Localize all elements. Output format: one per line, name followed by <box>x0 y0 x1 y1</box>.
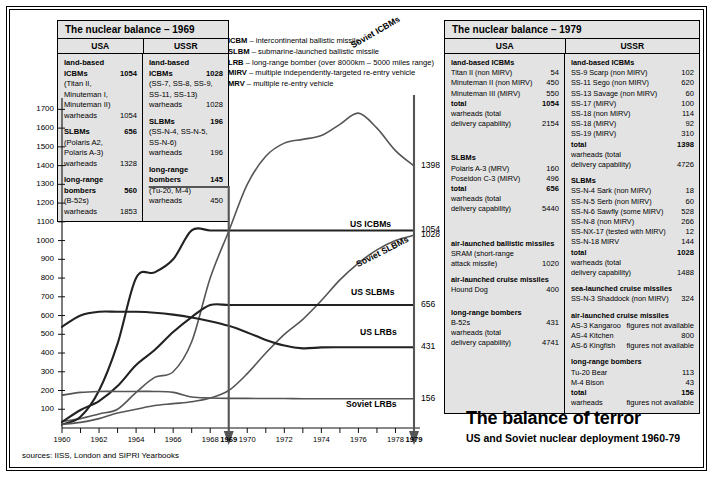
y-tick-label: 800 <box>22 273 54 282</box>
row-value: 324 <box>681 294 694 304</box>
table-row: SLBMs <box>571 176 694 186</box>
table-1979-col-usa-header: USA <box>445 39 566 53</box>
row-label: SRAM (short-range <box>451 249 518 259</box>
series-label: Soviet LRBs <box>346 399 397 409</box>
row-label: SLBMs <box>571 176 600 186</box>
row-value: 656 <box>546 184 559 194</box>
page-subtitle: US and Soviet nuclear deployment 1960-79 <box>466 432 680 444</box>
x-tick-label: 1979 <box>397 435 431 444</box>
row-label: SS-N-18 MIRV <box>571 237 623 247</box>
y-tick-label: 1300 <box>22 179 54 188</box>
row-label: warheads (total <box>451 328 505 338</box>
table-row: land-based ICBMs <box>571 58 694 68</box>
row-label: warheads (total <box>571 150 625 160</box>
legend-desc: – long-range bomber (over 8000km – 5000 … <box>244 58 434 67</box>
table-row: warheads (total <box>451 328 559 338</box>
row-label: Tu-20 Bear <box>571 368 611 378</box>
abbreviation-legend: ICBM – intercontinental ballistic missil… <box>228 36 434 90</box>
legend-entry: SLBM – submarine-launched ballistic miss… <box>228 47 434 58</box>
row-label: delivery capability) <box>451 204 515 214</box>
table-row: Poseidon C-3 (MIRV)496 <box>451 174 559 184</box>
row-value: 92 <box>686 119 694 129</box>
line-chart: 1002003004005006007008009001000110012001… <box>14 95 454 455</box>
row-value: figures not available <box>626 341 694 351</box>
table-1979-header: USA USSR <box>445 39 699 54</box>
row-label: total <box>571 388 590 398</box>
row-label: AS-6 Kingfish <box>571 341 619 351</box>
page-title: The balance of terror <box>466 408 641 429</box>
table-row: SS-19 (MIRV)310 <box>571 129 694 139</box>
row-label: ICBMs <box>64 69 92 80</box>
y-tick-label: 1200 <box>22 198 54 207</box>
table-row: SS-NX-17 (tested with MIRV)12 <box>571 227 694 237</box>
y-tick-label: 500 <box>22 329 54 338</box>
row-value: 114 <box>682 109 694 119</box>
series-end-value: 1028 <box>421 229 440 239</box>
row-value: 1054 <box>120 69 137 80</box>
nuclear-balance-1979-table: The nuclear balance – 1979 USA USSR land… <box>444 20 700 414</box>
table-row: delivery capability)2154 <box>451 119 559 129</box>
x-tick-label: 1964 <box>119 435 153 444</box>
row-value: 450 <box>546 78 559 88</box>
table-1979-body: land-based ICBMsTitan II (non MIRV)54Min… <box>445 54 699 413</box>
table-1969-title: The nuclear balance – 1969 <box>58 21 228 39</box>
row-value: 496 <box>546 174 559 184</box>
table-row: AS-3 Kangaroofigures not available <box>571 321 694 331</box>
series-end-value: 656 <box>421 299 435 309</box>
row-value: 1398 <box>677 140 694 150</box>
table-row: (SS-7, SS-8, SS-9, <box>149 79 223 90</box>
row-value: 431 <box>546 318 559 328</box>
table-row: AS-4 Kitchen800 <box>571 331 694 341</box>
row-value: 160 <box>546 164 559 174</box>
row-label: Hound Dog <box>451 285 492 295</box>
row-value: 4726 <box>677 160 694 170</box>
table-row: SS-N-18 MIRV144 <box>571 237 694 247</box>
row-label: delivery capability) <box>571 160 635 170</box>
row-value: 310 <box>681 129 694 139</box>
row-label: delivery capability) <box>571 268 635 278</box>
row-value: 102 <box>681 68 694 78</box>
legend-abbr: ICBM <box>228 36 247 45</box>
table-row: warheads (total <box>451 109 559 119</box>
series-label: US ICBMs <box>350 219 391 229</box>
row-value: 113 <box>682 368 694 378</box>
row-label: land-based <box>149 58 193 69</box>
table-row: long-range bombers <box>451 308 559 318</box>
row-label: air-launched cruise missiles <box>571 311 673 321</box>
table-row: warheads (total <box>571 150 694 160</box>
row-label: SS-11 Sego (non MIRV) <box>571 78 653 88</box>
legend-abbr: SLBM <box>228 47 250 56</box>
row-value: 43 <box>686 378 694 388</box>
row-label: SS-N-8 (non MIRV) <box>571 217 638 227</box>
row-label: B-52s <box>451 318 474 328</box>
y-tick-label: 400 <box>22 348 54 357</box>
row-value: 60 <box>686 89 694 99</box>
legend-desc: – multiple independently-targeted re-ent… <box>247 68 415 77</box>
row-value: 100 <box>681 99 694 109</box>
table-row: SLBMs <box>451 153 559 163</box>
row-label: delivery capability) <box>451 338 515 348</box>
table-row: SS-18 (non MIRV)114 <box>571 109 694 119</box>
table-row: delivery capability)1488 <box>571 268 694 278</box>
table-row: ICBMs1054 <box>64 69 137 80</box>
row-value: 400 <box>546 285 559 295</box>
row-label: land-based ICBMs <box>571 58 638 68</box>
x-tick-label: 1976 <box>341 435 375 444</box>
row-value: 60 <box>686 197 694 207</box>
row-label: (Titan II, <box>64 79 96 90</box>
table-row: land-based <box>149 58 223 69</box>
table-row: warheads (total <box>451 194 559 204</box>
table-row: SS-N-5 Serb (non MIRV)60 <box>571 197 694 207</box>
row-label: SS-18 (MIRV) <box>571 119 620 129</box>
row-value: 156 <box>681 388 694 398</box>
table-row: Minuteman II (non MIRV)450 <box>451 78 559 88</box>
table-row: SRAM (short-range <box>451 249 559 259</box>
row-value: 800 <box>681 331 694 341</box>
row-label: SS-NX-17 (tested with MIRV) <box>571 227 670 237</box>
row-value: 528 <box>681 207 694 217</box>
series-end-value: 156 <box>421 393 435 403</box>
table-1969-header: USA USSR <box>58 39 228 54</box>
row-label: Minuteman II (non MIRV) <box>451 78 536 88</box>
row-label: M-4 Bison <box>571 378 608 388</box>
row-label: warheads (total <box>571 258 625 268</box>
